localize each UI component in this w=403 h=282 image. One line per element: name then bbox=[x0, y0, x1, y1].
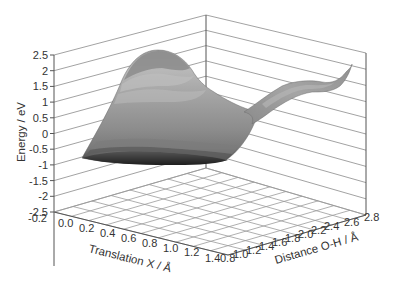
z-ticks bbox=[50, 55, 54, 212]
z-tick-labels: 2.5 2 1.5 1 0.5 0 -0.5 -1 -1.5 -2 -2.5 bbox=[29, 49, 48, 218]
x-tick-label: -0.2 bbox=[28, 212, 47, 224]
x-tick-label: 0.0 bbox=[58, 217, 73, 229]
x-tick-label: 1.4 bbox=[205, 252, 220, 264]
z-tick-label: 2 bbox=[42, 65, 48, 77]
y-tick-label: 2.6 bbox=[344, 216, 359, 228]
energy-surface bbox=[82, 50, 352, 165]
x-tick-label: 0.6 bbox=[121, 232, 136, 244]
z-tick-label: 0.5 bbox=[33, 112, 48, 124]
y-tick-label: 2.8 bbox=[364, 211, 379, 223]
z-tick-label: -2 bbox=[38, 190, 48, 202]
x-axis-label: Translation X / Å bbox=[88, 242, 173, 274]
z-tick-label: 1 bbox=[42, 96, 48, 108]
y-tick-label: 2.4 bbox=[324, 220, 339, 232]
z-axis-label: Energy / eV bbox=[15, 102, 27, 162]
z-tick-label: 0 bbox=[42, 128, 48, 140]
x-tick-label: 1.0 bbox=[163, 242, 178, 254]
surface-plot: 2.5 2 1.5 1 0.5 0 -0.5 -1 -1.5 -2 -2.5 E… bbox=[0, 0, 403, 282]
x-tick-label: 0.4 bbox=[100, 227, 115, 239]
x-tick-label: 1.2 bbox=[184, 246, 199, 258]
z-tick-label: -1.5 bbox=[29, 175, 48, 187]
x-tick-label: 0.8 bbox=[142, 237, 157, 249]
x-tick-label: 0.2 bbox=[79, 222, 94, 234]
z-tick-label: 1.5 bbox=[33, 80, 48, 92]
z-tick-label: 2.5 bbox=[33, 49, 48, 61]
z-tick-label: -1 bbox=[38, 159, 48, 171]
z-tick-label: -0.5 bbox=[29, 143, 48, 155]
